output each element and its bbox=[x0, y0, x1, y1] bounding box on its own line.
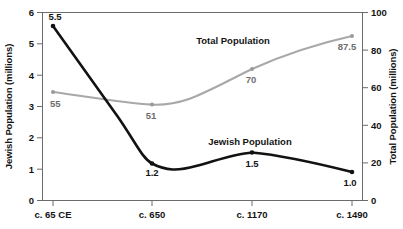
left-tick-5: 5 bbox=[29, 38, 35, 49]
total-population-label-3: 87.5 bbox=[338, 41, 357, 52]
jewish-population-point-3 bbox=[350, 170, 355, 175]
jewish-population-label-3: 1.0 bbox=[343, 177, 356, 188]
jewish-population-label-1: 1.2 bbox=[145, 167, 158, 178]
total-population-point-0 bbox=[51, 90, 55, 94]
left-tick-1: 1 bbox=[29, 164, 35, 175]
left-axis-ticks bbox=[37, 13, 43, 201]
jewish-population-label-2: 1.5 bbox=[245, 158, 259, 169]
right-tick-80: 80 bbox=[371, 45, 382, 56]
total-population-line bbox=[53, 36, 352, 105]
left-tick-2: 2 bbox=[29, 132, 34, 143]
total-population-label-0: 55 bbox=[50, 98, 61, 109]
left-tick-4: 4 bbox=[29, 70, 35, 81]
left-tick-3: 3 bbox=[29, 101, 34, 112]
right-tick-100: 100 bbox=[371, 7, 387, 18]
jewish-population-label-0: 5.5 bbox=[48, 11, 62, 22]
total-population-label-1: 51 bbox=[146, 110, 157, 121]
right-tick-20: 20 bbox=[371, 157, 382, 168]
left-axis-title: Jewish Population (millions) bbox=[3, 44, 14, 169]
total-population-point-3 bbox=[350, 34, 354, 38]
right-axis-ticks bbox=[363, 13, 369, 201]
total-population-point-1 bbox=[150, 103, 154, 107]
jewish-population-series-label: Jewish Population bbox=[208, 136, 292, 147]
total-population-series-label: Total Population bbox=[196, 35, 270, 46]
x-tick-label-2: c. 1170 bbox=[236, 209, 267, 220]
dual-axis-line-chart: 6 5 4 3 2 1 0 Jewish Population (million… bbox=[0, 0, 403, 229]
right-tick-0: 0 bbox=[371, 195, 376, 206]
jewish-population-point-2 bbox=[250, 150, 255, 155]
right-axis-title: Total Population (millions) bbox=[387, 49, 398, 165]
right-tick-40: 40 bbox=[371, 120, 382, 131]
x-tick-label-3: c. 1490 bbox=[336, 209, 368, 220]
total-population-label-2: 70 bbox=[246, 74, 257, 85]
x-tick-label-0: c. 65 CE bbox=[35, 209, 72, 220]
left-tick-0: 0 bbox=[29, 195, 34, 206]
chart-container: 6 5 4 3 2 1 0 Jewish Population (million… bbox=[0, 0, 403, 229]
x-tick-label-1: c. 650 bbox=[139, 209, 165, 220]
x-axis-ticks bbox=[53, 201, 352, 207]
right-tick-60: 60 bbox=[371, 82, 382, 93]
total-population-point-2 bbox=[250, 67, 254, 71]
jewish-population-point-1 bbox=[150, 161, 155, 166]
left-tick-6: 6 bbox=[29, 7, 34, 18]
jewish-population-point-0 bbox=[51, 24, 56, 29]
